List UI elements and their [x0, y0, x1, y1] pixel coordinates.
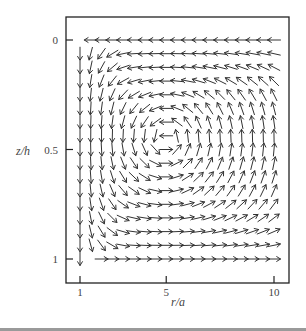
vector-arrow: [192, 65, 205, 70]
vector-arrow: [174, 130, 179, 143]
vector-arrow: [160, 120, 173, 125]
vector-arrow: [88, 61, 93, 74]
vector-arrow: [204, 201, 216, 207]
vector-arrow: [160, 161, 173, 166]
vector-arrow: [217, 116, 222, 129]
vector-arrow: [99, 116, 104, 129]
vector-arrow: [110, 171, 115, 183]
vector-arrow: [229, 143, 234, 156]
vector-arrow: [89, 170, 94, 183]
vector-arrow: [185, 129, 190, 142]
y-tick-label: 0: [53, 34, 59, 46]
vector-arrow: [194, 172, 204, 181]
vector-arrow: [173, 145, 182, 155]
vector-arrow: [236, 77, 247, 85]
vector-arrow: [249, 89, 256, 100]
vector-arrow: [218, 129, 223, 142]
vector-arrow: [207, 129, 212, 142]
vector-arrow: [160, 147, 173, 152]
vector-arrow: [121, 129, 126, 142]
vector-arrow: [197, 143, 202, 155]
vector-arrow: [130, 158, 137, 169]
vector-arrow: [218, 143, 223, 156]
vector-arrow: [238, 89, 246, 100]
vector-arrow: [117, 244, 130, 249]
vector-arrow: [249, 185, 255, 197]
vector-arrow: [98, 48, 106, 59]
vector-arrow: [195, 158, 202, 169]
x-tick-label: 5: [163, 286, 169, 298]
vector-arrow: [153, 130, 158, 143]
vector-arrow: [78, 211, 83, 224]
vector-arrow: [205, 172, 213, 182]
vector-arrow: [78, 157, 83, 170]
vector-arrow: [260, 102, 265, 115]
vector-arrow: [98, 226, 105, 237]
vector-arrow: [261, 171, 266, 183]
vector-arrow: [78, 88, 83, 101]
vector-arrow: [214, 78, 226, 84]
vector-arrow: [149, 189, 162, 194]
vector-arrow: [89, 157, 94, 170]
vector-arrow: [99, 129, 104, 142]
vector-arrow: [120, 103, 126, 115]
vector-arrow: [270, 199, 278, 209]
vector-arrow: [251, 157, 256, 170]
vector-arrow: [78, 143, 83, 156]
vector-arrow: [271, 116, 276, 129]
vector-arrow: [247, 215, 258, 222]
vector-arrow: [246, 64, 258, 70]
vector-arrow: [217, 171, 224, 182]
vector-arrow: [185, 144, 191, 156]
vector-field-plot: 00.511510 z/h r/a: [0, 0, 306, 331]
vector-arrow: [193, 187, 204, 195]
vector-arrow: [160, 134, 173, 139]
vector-arrow: [99, 212, 105, 224]
vector-arrow: [257, 51, 270, 56]
vector-arrow: [138, 216, 151, 221]
vector-arrow: [182, 173, 193, 180]
vector-arrow: [132, 143, 137, 155]
vector-arrow: [78, 129, 83, 142]
vector-arrow: [236, 229, 248, 234]
vector-arrow: [172, 118, 182, 126]
vector-arrow: [228, 102, 234, 114]
vector-arrow: [259, 199, 267, 209]
vector-arrow: [171, 229, 184, 234]
vector-arrow: [250, 129, 255, 142]
vector-arrow: [228, 171, 234, 183]
vector-arrow: [215, 201, 226, 208]
vector-arrow: [89, 239, 94, 252]
vector-arrow: [204, 91, 214, 99]
vector-arrow: [193, 91, 204, 98]
vector-arrow: [205, 186, 215, 195]
vector-arrow: [239, 171, 245, 183]
vector-arrow: [129, 172, 138, 181]
vector-arrow: [120, 171, 127, 182]
vector-arrow: [203, 215, 215, 220]
vector-arrow: [246, 51, 259, 56]
vector-arrow: [260, 89, 266, 101]
vector-arrow: [206, 157, 212, 169]
vector-arrow: [249, 102, 254, 114]
vector-arrow: [183, 104, 193, 112]
vector-arrow: [227, 90, 235, 100]
vector-arrow: [250, 171, 256, 183]
vector-arrow: [261, 116, 266, 129]
x-tick-label: 10: [269, 286, 281, 298]
vector-arrow: [142, 144, 148, 156]
vector-arrow: [140, 104, 150, 112]
vector-arrow: [110, 129, 115, 142]
vector-arrow: [128, 91, 139, 98]
vector-arrow: [99, 102, 104, 115]
vector-arrow: [272, 143, 277, 156]
vector-arrow: [140, 159, 149, 168]
y-tick-label: 1: [53, 253, 59, 265]
vector-arrow: [160, 106, 173, 111]
vector-arrow: [89, 143, 94, 156]
vector-arrow: [195, 116, 201, 128]
vector-arrow: [110, 116, 115, 129]
vector-arrow: [78, 102, 83, 115]
vector-arrow: [139, 92, 151, 98]
vector-arrow: [141, 117, 148, 128]
